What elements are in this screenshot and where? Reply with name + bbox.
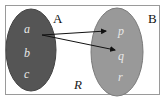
- set-b-label: B: [148, 12, 157, 25]
- element-a: a: [24, 23, 30, 35]
- universe-label: R: [74, 78, 82, 91]
- set-a-label: A: [53, 12, 62, 25]
- element-r: r: [118, 71, 123, 83]
- set-b-ellipse: [91, 8, 143, 96]
- element-p: p: [118, 25, 124, 37]
- element-c: c: [24, 68, 29, 80]
- set-a-ellipse: [6, 9, 56, 91]
- element-q: q: [118, 50, 124, 62]
- element-b: b: [24, 47, 30, 59]
